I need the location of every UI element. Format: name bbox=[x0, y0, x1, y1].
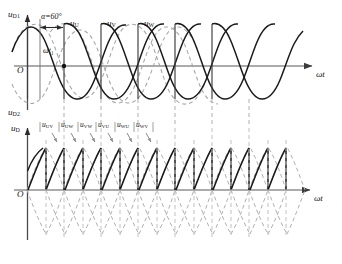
phase-label-w: uW bbox=[144, 19, 154, 29]
alpha-annotation: α=60° bbox=[41, 13, 62, 21]
top-solid-phase-curves bbox=[12, 24, 303, 99]
bottom-x-axis-label: ωt bbox=[314, 194, 323, 203]
bottom-y-axis-label-ud: uD bbox=[11, 124, 20, 134]
phase-label-v: uV bbox=[107, 19, 116, 29]
line-voltage-label-wv: uWV bbox=[136, 121, 148, 130]
rectifier-waveform-figure bbox=[0, 0, 342, 264]
bottom-dashed-curves bbox=[27, 190, 305, 234]
top-origin-label: O bbox=[17, 66, 24, 75]
bottom-y-axis-label-ud2: uD2 bbox=[8, 108, 20, 118]
top-commutation-lines-solid bbox=[28, 24, 213, 99]
top-y-axis-label: uD1 bbox=[8, 10, 20, 20]
line-voltage-label-vw: uVW bbox=[80, 121, 92, 130]
line-voltage-label-wu: uWU bbox=[117, 121, 129, 130]
bottom-commutation-guides bbox=[46, 128, 286, 238]
line-voltage-label-uv: uUV bbox=[42, 121, 53, 130]
top-chart-panel bbox=[12, 15, 312, 126]
omega-t1-label: ωt₁ bbox=[43, 47, 54, 55]
phase-label-u: uU bbox=[70, 19, 79, 29]
omega-t1-point-marker bbox=[62, 64, 66, 68]
top-x-axis-label: ωt bbox=[316, 70, 325, 79]
line-voltage-label-vu: uVU bbox=[98, 121, 109, 130]
bottom-origin-label: O bbox=[17, 190, 24, 199]
bottom-chart-panel bbox=[14, 122, 310, 240]
line-voltage-label-uw: uUW bbox=[61, 121, 73, 130]
